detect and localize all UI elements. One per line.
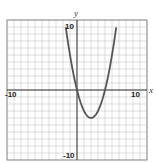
y-axis-label: y [73, 8, 78, 18]
x-axis-label: x [148, 85, 153, 95]
y-max-tick-label: 10 [65, 22, 74, 31]
x-max-tick-label: 10 [131, 90, 140, 99]
x-min-tick-label: -10 [5, 90, 17, 99]
graph: y x -10 10 -10 10 [0, 0, 156, 163]
y-min-tick-label: -10 [63, 151, 75, 160]
